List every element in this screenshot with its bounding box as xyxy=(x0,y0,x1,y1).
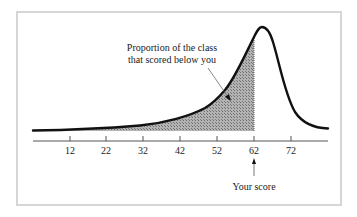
x-tick-label: 32 xyxy=(138,145,148,156)
your-score-label: Your score xyxy=(232,181,276,192)
x-tick-label: 52 xyxy=(212,145,222,156)
x-tick-label: 72 xyxy=(286,145,296,156)
x-tick-label: 12 xyxy=(65,145,75,156)
x-tick-label: 42 xyxy=(175,145,185,156)
your-score-arrow-icon xyxy=(252,158,256,176)
distribution-chart: 12 22 32 42 52 62 72 Proportion of the c… xyxy=(0,0,357,217)
annotation-proportion-line1: Proportion of the class xyxy=(127,42,217,53)
x-tick-label: 62 xyxy=(249,145,259,156)
x-axis-ticks xyxy=(70,136,291,141)
x-tick-label: 22 xyxy=(101,145,111,156)
annotation-proportion-line2: that scored below you xyxy=(128,54,216,65)
